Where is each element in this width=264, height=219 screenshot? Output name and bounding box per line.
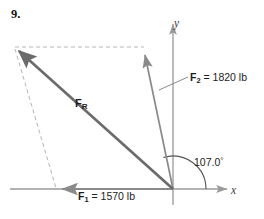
force-resultant-subscript: R <box>82 102 88 111</box>
vector-diagram-figure: 9. y x FR F2 = 1820 lb F1 = 1570 lb 107.… <box>0 0 264 219</box>
angle-measure-label: 107.0° <box>194 157 223 168</box>
axes-group <box>10 24 227 205</box>
force-resultant-label: FR <box>75 98 88 111</box>
angle-value: 107.0 <box>194 156 220 168</box>
force-resultant-symbol: F <box>75 97 82 109</box>
degree-symbol: ° <box>220 156 223 165</box>
construction-lines-group <box>15 47 144 188</box>
force-2-subscript: 2 <box>196 76 200 85</box>
vector-FR-arrow <box>19 51 173 189</box>
force-1-subscript: 1 <box>84 195 88 204</box>
x-axis-label: x <box>231 185 236 197</box>
problem-number: 9. <box>11 8 20 21</box>
force-1-value: = 1570 lb <box>92 190 136 202</box>
vectors-group <box>19 51 173 189</box>
diagram-canvas <box>0 0 264 219</box>
force-2-label: F2 = 1820 lb <box>190 72 247 84</box>
force-2-value: = 1820 lb <box>204 71 248 83</box>
y-axis-label: y <box>174 18 179 30</box>
force-1-label: F1 = 1570 lb <box>78 191 135 203</box>
parallelogram-left-dashed-line <box>15 49 56 188</box>
